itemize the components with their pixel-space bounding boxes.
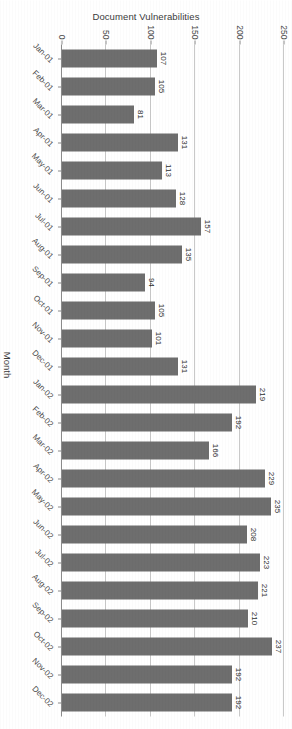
x-tick-label: Oct-02: [32, 629, 55, 652]
bar[interactable]: [62, 105, 134, 122]
bar-value-label: 157: [203, 219, 211, 232]
bar-group[interactable]: 192Dec-02: [62, 688, 284, 716]
bar-group[interactable]: 192Nov-02: [62, 660, 284, 688]
bar-group[interactable]: 113May-01: [62, 156, 284, 184]
bar[interactable]: [62, 665, 232, 682]
bar-value-label: 128: [178, 191, 186, 204]
bar[interactable]: [62, 189, 176, 206]
bar[interactable]: [62, 77, 155, 94]
bar[interactable]: [62, 469, 265, 486]
bars-layer: 107Jan-01105Feb-0181Mar-01131Apr-01113Ma…: [62, 44, 284, 716]
y-tick-label: 0: [57, 34, 67, 39]
x-tick-label: Oct-01: [32, 293, 55, 316]
bar[interactable]: [62, 301, 155, 318]
bar[interactable]: [62, 441, 209, 458]
bar-value-label: 229: [267, 471, 275, 484]
bar-group[interactable]: 131Apr-01: [62, 128, 284, 156]
x-tick-label: Aug-01: [30, 236, 55, 261]
bar-group[interactable]: 81Mar-01: [62, 100, 284, 128]
bar-value-label: 94: [147, 278, 155, 287]
bar-group[interactable]: 94Sep-01: [62, 268, 284, 296]
x-tick-label: Jun-01: [31, 181, 55, 205]
x-tick-mark: [58, 198, 62, 199]
bar[interactable]: [62, 693, 232, 710]
bar-value-label: 192: [234, 667, 242, 680]
bar-group[interactable]: 157Jul-01: [62, 212, 284, 240]
bar[interactable]: [62, 357, 178, 374]
y-tick-label: 100: [146, 25, 156, 39]
bar-group[interactable]: 221Aug-02: [62, 576, 284, 604]
bar[interactable]: [62, 133, 178, 150]
bar-value-label: 107: [159, 51, 167, 64]
bar-value-label: 208: [249, 527, 257, 540]
bar[interactable]: [62, 637, 272, 654]
bar[interactable]: [62, 49, 157, 66]
y-tick-mark: [195, 40, 196, 44]
bar-group[interactable]: 105Oct-01: [62, 296, 284, 324]
x-tick-label: Jan-01: [31, 41, 55, 65]
bar-value-label: 101: [154, 331, 162, 344]
bar[interactable]: [62, 161, 162, 178]
x-tick-mark: [58, 366, 62, 367]
y-tick-label: 50: [101, 30, 111, 39]
bar-group[interactable]: 208Jun-02: [62, 520, 284, 548]
bar-group[interactable]: 101Nov-01: [62, 324, 284, 352]
rotated-figure-wrapper: Document Vulnerabilities 050100150200250…: [0, 0, 292, 729]
x-tick-label: Apr-01: [32, 125, 55, 148]
y-tick-mark: [106, 40, 107, 44]
bar-group[interactable]: 235May-02: [62, 492, 284, 520]
bar-group[interactable]: 166Mar-02: [62, 436, 284, 464]
bar[interactable]: [62, 329, 152, 346]
y-axis-title: Document Vulnerabilities: [0, 6, 292, 24]
x-tick-label: Jul-01: [33, 211, 55, 233]
x-tick-label: Sep-01: [30, 264, 55, 289]
bar-value-label: 81: [136, 110, 144, 119]
bar-group[interactable]: 131Dec-01: [62, 352, 284, 380]
bar-group[interactable]: 237Oct-02: [62, 632, 284, 660]
bar[interactable]: [62, 581, 258, 598]
x-tick-mark: [58, 142, 62, 143]
bar[interactable]: [62, 217, 201, 234]
y-tick-mark: [150, 40, 151, 44]
bar-value-label: 135: [184, 247, 192, 260]
x-tick-mark: [58, 646, 62, 647]
bar-group[interactable]: 105Feb-01: [62, 72, 284, 100]
bar-group[interactable]: 229Apr-02: [62, 464, 284, 492]
x-tick-label: May-01: [30, 151, 55, 176]
bar-group[interactable]: 219Jan-02: [62, 380, 284, 408]
bar[interactable]: [62, 553, 260, 570]
bar[interactable]: [62, 609, 248, 626]
y-tick-mark: [284, 40, 285, 44]
x-tick-mark: [58, 506, 62, 507]
bar-value-label: 235: [273, 499, 281, 512]
bar[interactable]: [62, 273, 145, 290]
bar[interactable]: [62, 525, 247, 542]
bar-value-label: 105: [157, 303, 165, 316]
bar[interactable]: [62, 413, 232, 430]
x-tick-mark: [58, 86, 62, 87]
bar-group[interactable]: 135Aug-01: [62, 240, 284, 268]
bar-value-label: 210: [250, 611, 258, 624]
bar[interactable]: [62, 497, 271, 514]
x-tick-label: Jul-02: [33, 547, 55, 569]
bar-group[interactable]: 128Jun-01: [62, 184, 284, 212]
y-tick-label: 150: [190, 25, 200, 39]
bar-value-label: 192: [234, 415, 242, 428]
bar[interactable]: [62, 245, 182, 262]
x-tick-mark: [58, 58, 62, 59]
bar-group[interactable]: 192Feb-02: [62, 408, 284, 436]
x-tick-mark: [58, 534, 62, 535]
bar[interactable]: [62, 385, 256, 402]
bar-value-label: 192: [234, 695, 242, 708]
bar-chart-figure: Document Vulnerabilities 050100150200250…: [0, 0, 292, 729]
plot-area: 050100150200250 107Jan-01105Feb-0181Mar-…: [62, 44, 284, 716]
x-tick-label: Jan-02: [31, 377, 55, 401]
x-tick-mark: [58, 450, 62, 451]
x-tick-mark: [58, 254, 62, 255]
y-tick-mark: [62, 40, 63, 44]
bar-group[interactable]: 107Jan-01: [62, 44, 284, 72]
bar-group[interactable]: 223Jul-02: [62, 548, 284, 576]
bar-group[interactable]: 210Sep-02: [62, 604, 284, 632]
x-tick-mark: [58, 590, 62, 591]
x-tick-mark: [58, 282, 62, 283]
